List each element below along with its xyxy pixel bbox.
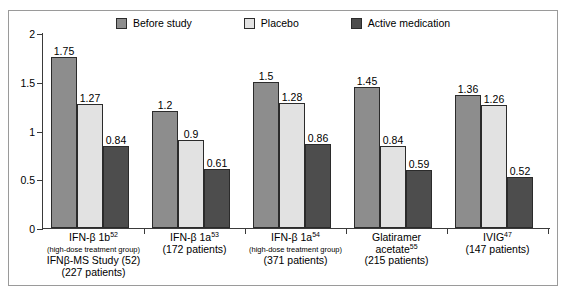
x-axis-label: IFN-β 1a54(high-dose treatment group)(37… [245,232,346,267]
x-axis-label-text: (high-dose treatment group) [47,245,140,254]
bar: 1.26 [481,105,507,228]
x-axis-label-line: (215 patients) [346,255,447,267]
x-axis-label-line: IFN-β 1b52 [43,232,144,244]
bar-value-label: 0.84 [106,134,126,146]
bar: 0.61 [204,169,230,228]
x-axis-label-line: (147 patients) [447,244,548,256]
bar-group: 1.51.280.86 [245,32,346,228]
y-tick-label: 0.5 [20,174,35,186]
bar: 1.27 [77,104,103,228]
legend-swatch-icon [116,18,127,29]
bar: 1.5 [253,82,279,228]
bar: 1.2 [152,111,178,228]
x-axis-label-text: acetate [375,243,409,255]
bar-group: 1.450.840.59 [346,32,447,228]
x-axis-label-text: (147 patients) [465,243,529,255]
y-tick-mark [37,229,43,230]
x-axis-label-text: IFN-β 1b [69,231,110,243]
bar-value-label: 0.86 [308,132,328,144]
legend-item-label: Active medication [368,18,450,29]
x-axis-labels: IFN-β 1b52(high-dose treatment group)IFN… [42,232,550,286]
bar-value-label: 1.45 [357,75,377,87]
bar-group: 1.751.270.84 [43,32,144,228]
legend-item: Before study [116,18,192,29]
chart-figure: Before studyPlaceboActive medication 00.… [8,10,558,286]
plot-area: 00.511.52 1.751.270.841.20.90.611.51.280… [42,33,550,229]
x-axis-label-text: (371 patients) [263,254,327,266]
x-axis-label-superscript: 54 [312,231,320,238]
legend-swatch-icon [244,18,255,29]
bar: 1.36 [455,95,481,228]
x-axis-label-superscript: 53 [211,231,219,238]
bar-value-label: 0.61 [207,157,227,169]
x-axis-label-text: (227 patients) [61,266,125,278]
x-axis-label-line: (371 patients) [245,255,346,267]
bar: 0.84 [103,146,129,228]
chart-legend: Before studyPlaceboActive medication [9,18,557,29]
bar-value-label: 1.75 [54,45,74,57]
y-tick-label: 1 [29,126,35,138]
bar: 1.45 [354,87,380,228]
bar-value-label: 0.84 [383,134,403,146]
y-tick-label: 1.5 [20,77,35,89]
x-axis-line [42,228,550,229]
y-tick-label: 0 [29,223,35,235]
bar: 0.86 [305,144,331,228]
bar-group: 1.361.260.52 [447,32,548,228]
legend-item: Active medication [351,18,450,29]
legend-item: Placebo [244,18,299,29]
x-axis-label-text: (215 patients) [364,254,428,266]
x-axis-label-line: (227 patients) [43,267,144,279]
x-axis-label: IFN-β 1a53(172 patients) [144,232,245,255]
bar: 1.75 [51,57,77,228]
x-axis-label-text: IVIG [483,231,504,243]
bar-value-label: 0.9 [184,128,199,140]
x-axis-label-text: IFNβ-MS Study (52) [47,254,141,266]
bar: 0.59 [406,170,432,228]
x-axis-label-text: IFN-β 1a [271,231,312,243]
bar-value-label: 1.27 [80,92,100,104]
bar-value-label: 1.2 [158,99,173,111]
x-axis-label-line: IFN-β 1a54 [245,232,346,244]
x-axis-label-superscript: 52 [110,231,118,238]
legend-item-label: Before study [133,18,192,29]
bar: 1.28 [279,103,305,228]
x-axis-label: Glatirameracetate55(215 patients) [346,232,447,267]
bar-group: 1.20.90.61 [144,32,245,228]
y-tick-label: 2 [29,28,35,40]
legend-swatch-icon [351,18,362,29]
x-axis-label: IFN-β 1b52(high-dose treatment group)IFN… [43,232,144,278]
x-axis-label: IVIG47(147 patients) [447,232,548,255]
bar-value-label: 0.59 [409,158,429,170]
bar-value-label: 1.28 [282,91,302,103]
bar-value-label: 1.36 [458,83,478,95]
bar-value-label: 1.5 [259,70,274,82]
bar: 0.84 [380,146,406,228]
bar: 0.9 [178,140,204,228]
legend-item-label: Placebo [261,18,299,29]
x-axis-label-superscript: 47 [504,231,512,238]
x-axis-label-line: (172 patients) [144,244,245,256]
x-axis-label-superscript: 55 [410,242,418,249]
bar-value-label: 1.26 [484,93,504,105]
x-axis-label-text: (high-dose treatment group) [249,245,342,254]
x-axis-label-text: IFN-β 1a [170,231,211,243]
x-axis-label-text: (172 patients) [162,243,226,255]
bar: 0.52 [507,177,533,228]
bar-value-label: 0.52 [510,165,530,177]
